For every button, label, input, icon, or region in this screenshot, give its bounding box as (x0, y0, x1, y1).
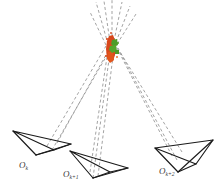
frustum-k-edge-1 (13, 131, 36, 155)
camera-label-k2-subscript: k+2 (166, 171, 175, 177)
camera-label-k1-subscript: k+1 (70, 174, 79, 180)
camera-label-k-base: O (19, 160, 26, 170)
ray-cam-k2-a (118, 48, 177, 160)
ray-upper-b (104, 1, 110, 42)
ray-upper-g (90, 12, 106, 45)
camera-label-k1-base: O (63, 169, 70, 179)
cluster-orange-tail (107, 51, 114, 63)
cluster-speckle-2 (117, 42, 119, 44)
camera-frustum-k[interactable] (13, 131, 71, 155)
ray-cam-k1-b (98, 48, 114, 176)
cluster-speckle-5 (110, 32, 112, 34)
cluster-green-dot (115, 50, 119, 54)
projection-ray-group (47, 0, 182, 178)
ray-upper-d (114, 2, 122, 41)
ray-upper-f (117, 14, 136, 44)
camera-label-k2-base: O (159, 166, 166, 176)
ray-cam-k2-c (120, 52, 182, 152)
frustum-k2-image-plane (155, 140, 213, 164)
cluster-speckle-4 (116, 56, 118, 58)
cluster-speckle-3 (105, 55, 107, 57)
figure-canvas: Ok Ok+1 Ok+2 (0, 0, 223, 196)
ray-upper-e (116, 6, 130, 42)
frustum-k2-edge-3 (178, 164, 196, 172)
ray-upper-a (96, 2, 108, 44)
ray-cam-k-c (57, 44, 112, 143)
cluster-speckle-1 (106, 38, 108, 40)
ray-cam-k2-b (115, 44, 172, 156)
ray-cam-k1-a (93, 52, 110, 178)
frustum-k2-edge-2 (178, 140, 213, 172)
camera-label-k: Ok (19, 161, 28, 170)
camera-label-k-subscript: k (26, 165, 28, 171)
triangulation-diagram (0, 0, 223, 196)
camera-label-k-plus-1: Ok+1 (63, 170, 79, 179)
ray-cam-k-a (47, 46, 106, 146)
frustum-k-edge-3 (36, 150, 54, 155)
camera-label-k-plus-2: Ok+2 (159, 167, 175, 176)
frustum-k1-edge-3 (93, 172, 110, 178)
